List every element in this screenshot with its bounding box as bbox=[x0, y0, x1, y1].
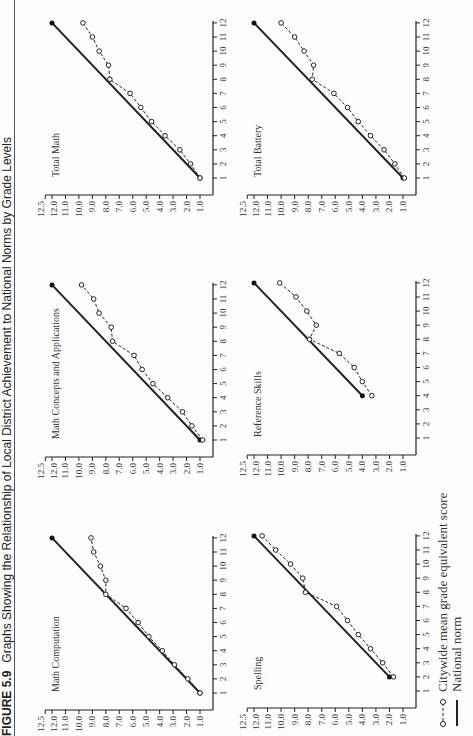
solid-line-icon bbox=[452, 698, 462, 728]
data-point bbox=[198, 691, 203, 696]
data-point bbox=[368, 646, 373, 651]
y-tick-label: 7.0 bbox=[317, 201, 327, 213]
y-tick-label: 4.0 bbox=[357, 714, 367, 726]
data-point bbox=[307, 337, 312, 342]
data-point bbox=[91, 550, 96, 555]
data-point bbox=[81, 21, 86, 26]
y-tick-label: 3.0 bbox=[168, 463, 178, 475]
x-tick-label: 3 bbox=[421, 147, 431, 152]
data-point bbox=[391, 675, 396, 680]
data-point bbox=[147, 634, 152, 639]
citywide-line bbox=[281, 23, 404, 178]
x-tick-label: 3 bbox=[218, 662, 228, 667]
data-point bbox=[337, 351, 342, 356]
data-point bbox=[402, 176, 407, 181]
y-tick-label: 1.0 bbox=[195, 463, 205, 475]
y-tick-label: 11.0 bbox=[60, 716, 70, 732]
y-tick-label: 12.0 bbox=[251, 714, 261, 730]
panel-title: Math Computation bbox=[50, 616, 61, 692]
x-tick-label: 11 bbox=[421, 33, 431, 42]
data-point bbox=[109, 325, 114, 330]
data-point bbox=[124, 606, 129, 611]
x-tick-label: 9 bbox=[218, 62, 228, 67]
y-tick-label: 1.0 bbox=[195, 716, 205, 728]
x-tick-label: 3 bbox=[218, 147, 228, 152]
citywide-line bbox=[83, 23, 200, 178]
x-tick-label: 7 bbox=[421, 351, 431, 356]
x-tick-label: 6 bbox=[218, 105, 228, 110]
data-point bbox=[311, 63, 316, 68]
x-tick-label: 7 bbox=[218, 91, 228, 96]
x-tick-label: 2 bbox=[421, 675, 431, 680]
chart-grid: 1.02.03.04.05.06.07.08.09.010.011.012.01… bbox=[0, 0, 473, 736]
y-tick-label: 12.5 bbox=[238, 714, 248, 730]
data-point bbox=[108, 77, 113, 82]
x-tick-label: 10 bbox=[218, 46, 228, 56]
data-point bbox=[356, 119, 361, 124]
data-point bbox=[279, 21, 284, 26]
legend-label-national: National norm bbox=[450, 617, 464, 692]
x-tick-label: 9 bbox=[218, 577, 228, 582]
legend-item-citywide: Citywide mean grade equivalent score bbox=[436, 493, 450, 728]
citywide-line bbox=[91, 538, 200, 693]
data-point bbox=[151, 381, 156, 386]
legend-item-national: National norm bbox=[450, 493, 464, 728]
citywide-line bbox=[82, 285, 203, 440]
y-tick-label: 8.0 bbox=[101, 716, 111, 728]
data-point bbox=[334, 604, 339, 609]
x-tick-label: 2 bbox=[218, 424, 228, 429]
y-tick-label: 12.5 bbox=[238, 461, 248, 477]
panel-spelling: 1.02.03.04.05.06.07.08.09.010.011.012.01… bbox=[238, 531, 431, 729]
x-tick-label: 4 bbox=[421, 133, 431, 138]
x-tick-label: 2 bbox=[218, 677, 228, 682]
y-tick-label: 5.0 bbox=[344, 201, 354, 213]
y-tick-label: 10.0 bbox=[74, 201, 84, 217]
x-tick-label: 6 bbox=[421, 105, 431, 110]
y-tick-label: 2.0 bbox=[182, 201, 192, 213]
y-tick-label: 2.0 bbox=[384, 201, 394, 213]
y-tick-label: 11.0 bbox=[263, 461, 273, 477]
panel-total-math: 1.02.03.04.05.06.07.08.09.010.011.012.01… bbox=[36, 18, 228, 216]
citywide-line bbox=[262, 536, 393, 677]
data-point bbox=[345, 105, 350, 110]
panel-title: Total Battery bbox=[252, 125, 263, 177]
y-tick-label: 6.0 bbox=[330, 461, 340, 473]
y-tick-label: 10.0 bbox=[74, 716, 84, 732]
data-point bbox=[139, 105, 144, 110]
x-tick-label: 2 bbox=[421, 162, 431, 167]
data-point bbox=[332, 91, 337, 96]
y-tick-label: 10.0 bbox=[74, 463, 84, 479]
y-tick-label: 8.0 bbox=[101, 463, 111, 475]
y-tick-label: 6.0 bbox=[330, 201, 340, 213]
data-point bbox=[163, 133, 168, 138]
y-tick-label: 4.0 bbox=[357, 201, 367, 213]
y-tick-label: 11.0 bbox=[60, 201, 70, 217]
y-tick-label: 10.0 bbox=[276, 461, 286, 477]
y-tick-label: 8.0 bbox=[101, 201, 111, 213]
data-point bbox=[345, 618, 350, 623]
data-point bbox=[382, 148, 387, 153]
y-tick-label: 6.0 bbox=[128, 463, 138, 475]
x-tick-label: 9 bbox=[421, 322, 431, 327]
x-tick-label: 5 bbox=[421, 119, 431, 124]
citywide-line bbox=[280, 283, 372, 396]
x-tick-label: 5 bbox=[421, 632, 431, 637]
data-point bbox=[178, 148, 183, 153]
data-point bbox=[260, 534, 265, 539]
y-tick-label: 11.0 bbox=[60, 463, 70, 479]
x-tick-label: 10 bbox=[421, 46, 431, 56]
y-tick-label: 2.0 bbox=[384, 461, 394, 473]
x-tick-label: 10 bbox=[421, 306, 431, 316]
data-point bbox=[360, 379, 365, 384]
y-tick-label: 12.5 bbox=[238, 201, 248, 217]
y-tick-label: 9.0 bbox=[87, 201, 97, 213]
x-tick-label: 11 bbox=[421, 546, 431, 555]
x-tick-label: 8 bbox=[218, 592, 228, 597]
dashed-circle-marker-icon bbox=[438, 698, 448, 728]
figure: FIGURE 5.9Graphs Showing the Relationshi… bbox=[0, 0, 473, 736]
x-tick-label: 9 bbox=[218, 324, 228, 329]
national-norm-line bbox=[52, 538, 200, 693]
legend: Citywide mean grade equivalent score Nat… bbox=[436, 493, 464, 728]
y-tick-label: 12.0 bbox=[49, 201, 59, 217]
national-norm-line bbox=[52, 23, 200, 178]
